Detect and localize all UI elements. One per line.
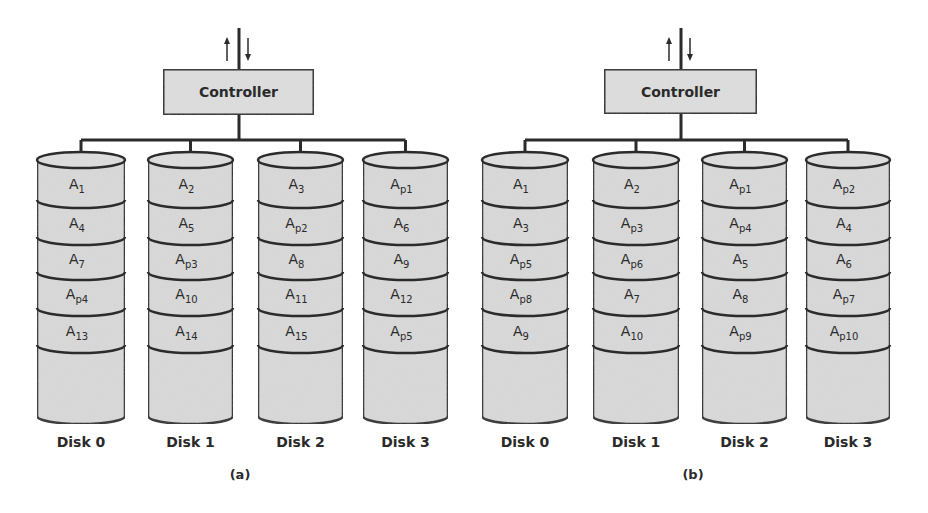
disk-body — [702, 160, 787, 424]
disk-body — [37, 160, 125, 424]
panel-caption: (b) — [682, 467, 703, 482]
disk-label: Disk 1 — [166, 434, 215, 450]
disk-label: Disk 0 — [57, 434, 106, 450]
panel-0: ControllerA1A4A7Ap4A13Disk 0A2A5Ap3A10A1… — [37, 28, 448, 482]
controller-box: Controller — [163, 69, 314, 115]
disk-label: Disk 3 — [381, 434, 430, 450]
disk-top — [258, 152, 343, 168]
disk-body — [593, 160, 679, 424]
disk-1: A2Ap3Ap6A7A10Disk 1 — [593, 140, 679, 450]
disk-body — [363, 160, 448, 424]
disk-label: Disk 2 — [276, 434, 325, 450]
disk-top — [482, 152, 568, 168]
disk-top — [702, 152, 787, 168]
down-arrow-icon — [687, 38, 693, 61]
controller-box: Controller — [604, 69, 757, 114]
disk-2: Ap1Ap4A5A8Ap9Disk 2 — [702, 140, 787, 450]
disk-label: Disk 0 — [501, 434, 550, 450]
disk-top — [806, 152, 890, 168]
disk-label: Disk 3 — [824, 434, 873, 450]
disk-body — [148, 160, 233, 424]
up-arrow-icon — [666, 37, 672, 61]
disk-body — [806, 160, 890, 424]
controller-label: Controller — [641, 84, 720, 100]
disk-1: A2A5Ap3A10A14Disk 1 — [148, 140, 233, 450]
up-arrow-icon — [224, 37, 230, 61]
raid-diagram: ControllerA1A4A7Ap4A13Disk 0A2A5Ap3A10A1… — [0, 0, 928, 513]
disk-0: A1A4A7Ap4A13Disk 0 — [37, 140, 125, 450]
controller-label: Controller — [199, 84, 278, 100]
disk-top — [148, 152, 233, 168]
disk-0: A1A3Ap5Ap8A9Disk 0 — [482, 140, 568, 450]
disk-top — [37, 152, 125, 168]
disk-body — [482, 160, 568, 424]
disk-3: Ap1A6A9A12Ap5Disk 3 — [363, 140, 448, 450]
panel-caption: (a) — [230, 467, 251, 482]
panel-1: ControllerA1A3Ap5Ap8A9Disk 0A2Ap3Ap6A7A1… — [482, 28, 890, 482]
disk-2: A3Ap2A8A11A15Disk 2 — [258, 140, 343, 450]
disk-label: Disk 1 — [612, 434, 661, 450]
down-arrow-icon — [245, 38, 251, 61]
disk-top — [363, 152, 448, 168]
disk-top — [593, 152, 679, 168]
disk-3: Ap2A4A6Ap7Ap10Disk 3 — [806, 140, 890, 450]
disk-body — [258, 160, 343, 424]
disk-label: Disk 2 — [720, 434, 769, 450]
